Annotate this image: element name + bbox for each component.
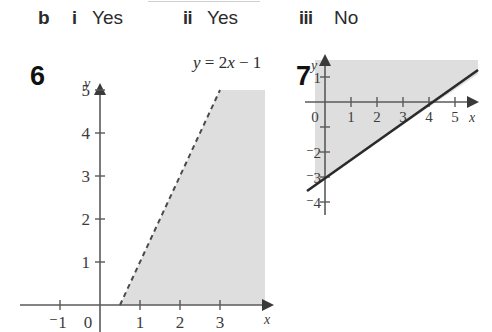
x-tick-label-7-0: 0 [311,109,319,125]
x-tick-label-7-5: 5 [451,109,459,125]
y-axis-label-6: y [82,76,91,91]
x-axis-arrow-7 [467,96,479,108]
answer-roman-i: i [72,9,77,28]
x-tick-label-6-1: 0 [84,313,93,332]
y-tick-label-6-0: 1 [82,253,91,272]
equation-label-6: y = 2x − 1 [191,53,261,72]
x-tick-label-6-3: 2 [176,313,185,332]
x-tick-label-7-1: 1 [347,109,355,125]
equation-label-6-rest: − 1 [235,53,262,72]
graph-7-svg: 0 1 2 3 4 5 1 ⁻2 ⁻3 ⁻4 y x [285,40,492,240]
y-tick-label-7-2: ⁻2 [306,145,322,161]
scan-artifact [148,1,260,2]
answer-text-iii: No [334,8,358,27]
graph-6-svg: ⁻1 0 1 2 3 1 2 3 4 5 y x y = 2x − 1 [0,40,280,332]
x-tick-label-6-0: ⁻1 [49,313,67,332]
graph-figure-7: 0 1 2 3 4 5 1 ⁻2 ⁻3 ⁻4 y x [285,40,492,240]
answer-row: b i Yes ii Yes iii No [0,0,492,36]
y-axis-arrow-6 [94,83,106,95]
y-tick-label-6-3: 4 [82,124,91,143]
answer-part-label-b: b [38,8,50,27]
x-axis-arrow-6 [262,299,274,311]
graph-figure-6: ⁻1 0 1 2 3 1 2 3 4 5 y x y = 2x − 1 [0,40,280,332]
equation-label-6-eq: = 2 [201,53,228,72]
answer-text-ii: Yes [207,8,238,27]
answer-roman-iii: iii [299,9,313,28]
y-axis-label-7: y [309,58,318,73]
x-axis-label-7: x [468,110,476,125]
y-tick-label-6-2: 3 [82,167,91,186]
equation-label-6-y: y [191,53,201,72]
x-tick-label-7-4: 4 [425,109,433,125]
x-tick-label-6-2: 1 [136,313,145,332]
x-tick-label-7-2: 2 [373,109,381,125]
shaded-region-6 [120,90,265,305]
x-tick-label-6-4: 3 [216,313,225,332]
x-axis-label-6: x [263,312,271,327]
y-tick-label-7-4: ⁻4 [306,195,322,211]
answer-text-i: Yes [92,8,123,27]
answer-roman-ii: ii [183,9,192,28]
y-tick-label-6-1: 2 [82,210,91,229]
